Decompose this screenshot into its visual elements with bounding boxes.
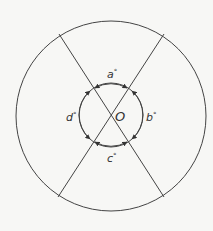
angle-label-b: b° <box>146 111 156 124</box>
angle-arc-c <box>95 142 127 146</box>
circle-angle-diagram: a° b° c° d° O <box>0 0 213 231</box>
angle-arc-d <box>79 91 90 139</box>
angle-label-c: c° <box>107 152 117 165</box>
angle-arc-a <box>95 84 127 88</box>
angle-label-a: a° <box>107 68 117 81</box>
center-label-o: O <box>115 109 125 124</box>
angle-label-d: d° <box>66 111 76 124</box>
angle-arc-b <box>132 91 143 139</box>
